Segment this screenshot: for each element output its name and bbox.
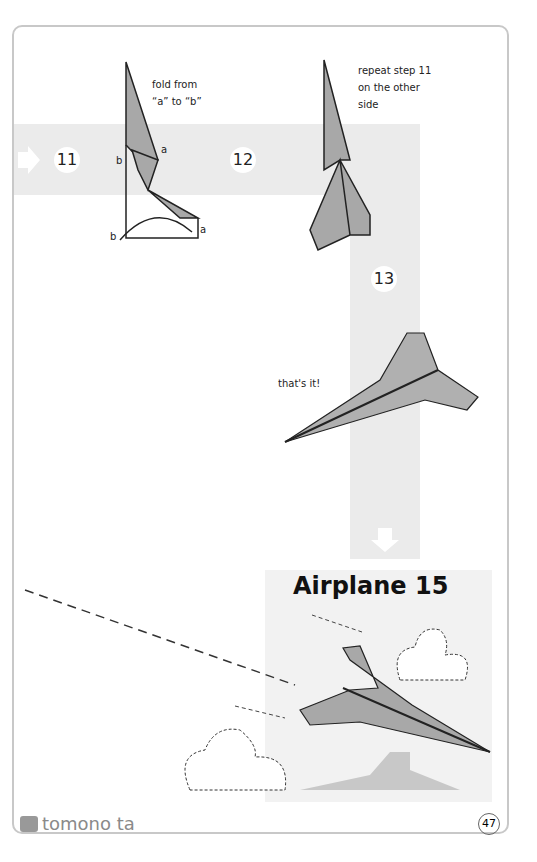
label-a-bottom: a bbox=[200, 221, 206, 238]
step-11-note: fold from “a” to “b” bbox=[152, 76, 202, 110]
plane-shadow bbox=[300, 752, 460, 790]
step-number-12: 12 bbox=[230, 147, 256, 173]
step-number-13: 13 bbox=[371, 266, 397, 292]
final-title: Airplane 15 bbox=[293, 572, 448, 600]
page-number: 47 bbox=[478, 813, 500, 835]
arrow-right-icon bbox=[18, 146, 40, 174]
label-b-top: b bbox=[116, 152, 122, 169]
cloud-right bbox=[397, 629, 467, 680]
brand-logo: tomono ta bbox=[20, 813, 135, 834]
label-b-bottom: b bbox=[110, 228, 116, 245]
cloud-left bbox=[185, 729, 286, 790]
label-a-top: a bbox=[161, 141, 167, 158]
step-13-note: that's it! bbox=[278, 375, 320, 392]
brand-icon bbox=[20, 816, 38, 832]
arrow-down-icon bbox=[371, 528, 399, 552]
step-number-11: 11 bbox=[54, 147, 80, 173]
illustrations bbox=[0, 0, 537, 862]
step-12-note: repeat step 11 on the other side bbox=[358, 62, 431, 113]
